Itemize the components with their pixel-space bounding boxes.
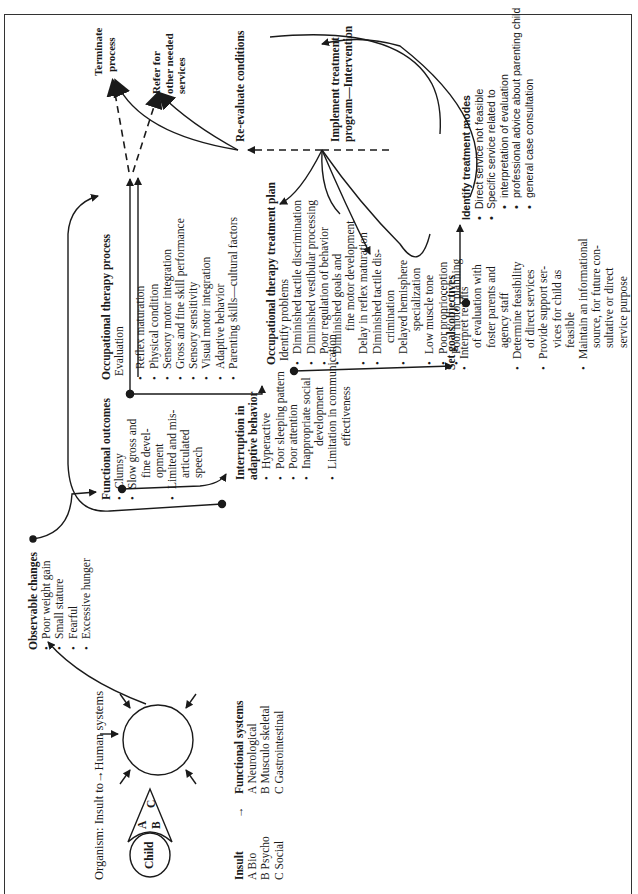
list-item: Diminished vestibular processing (305, 182, 318, 365)
list-item: Delay in reflex maturation (357, 182, 370, 365)
ot-process: Occupational therapy process Evaluation … (100, 217, 240, 380)
list-item: Sensory sensitivity (187, 217, 200, 380)
list-item: Diminished tactile dis- (371, 182, 384, 365)
insult-item: C Social (273, 836, 286, 880)
organism-caption: Organism: Insult to→Human systems (93, 691, 106, 880)
list-item-cont: source, for future con- (590, 238, 603, 370)
systems-legend: Functional systems A Neurological B Musc… (233, 700, 286, 794)
list-item-cont: fine devel- (140, 398, 153, 500)
cone-label-c: C (145, 800, 158, 808)
list-item-cont: of evaluation with (471, 238, 484, 370)
implement-treatment: Implement treatment program—Intervention (329, 26, 355, 142)
legend-arrow: → (233, 807, 246, 819)
refer-line-1: Refer for (150, 33, 163, 94)
observable-changes-title: Observable changes (27, 552, 40, 650)
ot-plan-subtitle: Identify problems (278, 182, 291, 365)
reevaluate-conditions: Re-evaluate conditions (234, 31, 247, 142)
child-label: Child (143, 842, 156, 870)
treatment-modes-title: Identify treatment modes (460, 8, 473, 220)
organism-circle (123, 705, 193, 775)
list-item-cont: service purpose (617, 238, 630, 370)
list-item-cont: speech (192, 398, 205, 500)
list-item: Specific service related to (485, 8, 498, 220)
list-item: Poor weight gain (40, 552, 53, 650)
ot-treatment-plan: Occupational therapy treatment plan Iden… (265, 182, 463, 365)
list-item: Provide support ser- (537, 238, 550, 370)
list-item-cont: fine motor development (344, 182, 357, 365)
list-item: Maintain an informational (577, 238, 590, 370)
list-item: Diminished goals and (331, 182, 344, 365)
systems-header: Functional systems (233, 700, 246, 794)
list-item: Low muscle tone (423, 182, 436, 365)
refer-line-2: other needed (163, 33, 176, 94)
ot-plan-title: Occupational therapy treatment plan (265, 182, 278, 365)
list-item-cont: sultative or direct (603, 238, 616, 370)
observable-changes: Observable changes Poor weight gain Smal… (27, 552, 93, 650)
list-item: Sensory motor integration (161, 217, 174, 380)
flowchart-canvas: Organism: Insult to→Human systems Child … (0, 0, 638, 894)
cone-label-b: B (150, 821, 163, 829)
list-item-cont: feasible (564, 238, 577, 370)
list-item: Small stature (53, 552, 66, 650)
ot-process-subtitle: Evaluation (113, 217, 126, 380)
list-item: Physical condition (148, 217, 161, 380)
list-item-cont: agency staff (498, 238, 511, 370)
list-item: Interpret results (458, 238, 471, 370)
list-item: Poor regulation of behavior (318, 182, 331, 365)
list-item: Excessive hunger (80, 552, 93, 650)
insult-legend: Insult A Bio B Psycho C Social (233, 836, 286, 880)
list-item: Slow gross and (126, 398, 139, 500)
list-item: Visual motor integration (200, 217, 213, 380)
refer-line-3: services (175, 33, 188, 94)
insult-item: A Bio (246, 836, 259, 880)
system-item: B Musculo skeletal (259, 700, 272, 794)
list-item-cont: of direct services (524, 238, 537, 370)
list-item: professional advice about parenting chil… (510, 8, 523, 220)
refer-other-services: Refer for other needed services (150, 33, 188, 94)
list-item: Adaptive behavior (214, 217, 227, 380)
interruption-title-2: adaptive behavior (247, 334, 260, 480)
list-item-cont: specialization (410, 182, 423, 365)
list-item: Fearful (67, 552, 80, 650)
functional-outcomes-title: Functional outcomes (100, 398, 113, 500)
list-item: Parenting skills—cultural factors (227, 217, 240, 380)
terminate-line-2: process (105, 28, 118, 76)
insult-item: B Psycho (259, 836, 272, 880)
list-item: Determine feasibility (511, 238, 524, 370)
list-item: Reflex maturation (134, 217, 147, 380)
list-item: Gross and fine skill performance (174, 217, 187, 380)
list-item-cont: vices for child as (551, 238, 564, 370)
list-item: Delayed hemisphere (397, 182, 410, 365)
terminate-process: Terminate process (92, 28, 117, 76)
implement-line-1: Implement treatment (329, 26, 342, 142)
list-item-cont: crimination (384, 182, 397, 365)
system-item: A Neurological (246, 700, 259, 794)
list-item: interpretation of evaluation (498, 8, 511, 220)
list-item: general case consultation (523, 8, 536, 220)
list-item: Direct service not feasible (473, 8, 486, 220)
insult-header: Insult (233, 851, 245, 880)
implement-line-2: program—Intervention (342, 26, 355, 142)
list-item: Diminished tactile discrimination (291, 182, 304, 365)
list-item: Limited and mis- (166, 398, 179, 500)
list-item-cont: articulated (179, 398, 192, 500)
functional-outcomes: Functional outcomes Clumsy Slow gross an… (100, 398, 206, 500)
list-item-cont: opment (153, 398, 166, 500)
list-item-cont: foster parents and (485, 238, 498, 370)
terminate-line-1: Terminate (92, 28, 105, 76)
cone-label-a: A (136, 821, 149, 829)
list-item: Clumsy (113, 398, 126, 500)
set-goals-objectives: Set goals/objectives Interpret results o… (445, 238, 630, 370)
set-goals-title: Set goals/objectives (445, 238, 458, 370)
ot-process-title: Occupational therapy process (100, 217, 113, 380)
identify-treatment-modes: Identify treatment modes Direct service … (460, 8, 536, 220)
system-item: C Gastrointestinal (273, 700, 286, 794)
